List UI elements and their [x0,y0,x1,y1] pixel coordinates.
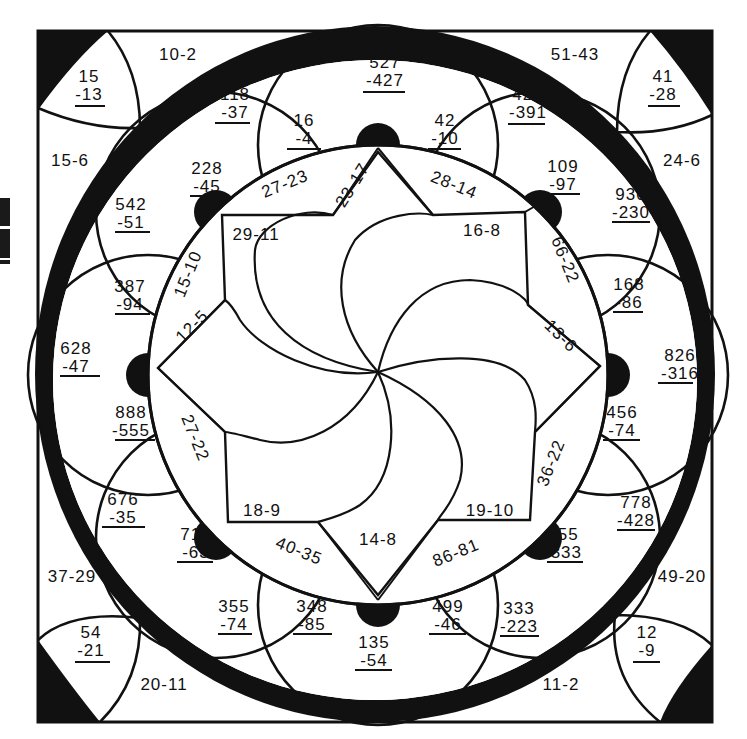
svg-text:542: 542 [115,195,146,214]
svg-text:15: 15 [79,67,100,86]
svg-text:-428: -428 [617,511,655,530]
border-problem: 37-29 [48,567,96,586]
petal-problem: 333 -223 [500,599,539,636]
petal-problem: 168 -86 [613,275,645,312]
svg-text:-10: -10 [431,129,459,148]
svg-text:109: 109 [547,157,578,176]
svg-text:628: 628 [60,339,91,358]
svg-text:135: 135 [358,633,389,652]
petal-problem: 527 -427 [363,53,405,92]
svg-text:-46: -46 [434,615,462,634]
svg-text:-74: -74 [608,421,636,440]
svg-text:555: 555 [547,525,578,544]
petal-problem: 456 -74 [603,403,640,440]
svg-text:355: 355 [218,597,249,616]
svg-text:42: 42 [435,111,456,130]
svg-text:-4: -4 [295,129,312,148]
petal-problem: 118 -37 [215,85,250,123]
petal-problem: 930 -230 [612,185,650,222]
inner-problem: 16-8 [463,221,501,240]
svg-text:118: 118 [220,85,250,104]
svg-text:41: 41 [653,67,674,86]
petal-problem: 355 -74 [218,597,252,634]
petal-problem: 421 -391 [508,85,547,124]
svg-text:-223: -223 [500,617,538,636]
svg-text:421: 421 [512,85,543,104]
border-problem: 49-20 [658,567,706,586]
svg-text:888: 888 [115,403,146,422]
mandala-worksheet: 15 -13 41 -28 54 -21 12 -9 10-2 15-6 51-… [0,0,747,739]
svg-text:-63: -63 [182,543,210,562]
svg-text:-316: -316 [661,364,699,383]
svg-text:-13: -13 [75,85,103,104]
svg-text:-45: -45 [193,177,221,196]
svg-text:-94: -94 [116,295,144,314]
border-problem: 15-6 [51,151,89,170]
svg-text:716: 716 [180,525,211,544]
svg-text:-9: -9 [638,641,655,660]
svg-text:-391: -391 [509,103,547,122]
svg-text:-74: -74 [220,615,248,634]
svg-text:527: 527 [369,53,400,72]
border-problem: 51-43 [551,45,599,64]
svg-text:-555: -555 [112,421,150,440]
svg-text:456: 456 [606,403,637,422]
svg-text:-47: -47 [62,357,90,376]
svg-text:-54: -54 [360,651,388,670]
svg-text:-37: -37 [221,103,249,122]
border-problem: 24-6 [663,151,701,170]
svg-text:-333: -333 [544,543,582,562]
svg-text:228: 228 [191,159,222,178]
svg-text:778: 778 [620,493,651,512]
petal-problem: 778 -428 [617,493,655,530]
svg-text:348: 348 [296,597,327,616]
border-problem: 11-2 [543,675,580,694]
inner-problem: 29-11 [232,225,279,244]
petal-problem: 826 -316 [658,346,699,383]
border-problem: 20-11 [140,675,187,694]
petal-problem: 716 -63 [177,525,213,562]
svg-text:-85: -85 [298,615,326,634]
svg-text:-230: -230 [612,203,650,222]
border-problem: 10-2 [159,45,197,64]
svg-text:-35: -35 [109,508,137,527]
svg-text:333: 333 [503,599,534,618]
svg-text:-28: -28 [649,85,677,104]
petal-problem: 135 -54 [355,633,392,670]
ring-problem: 14-8 [359,530,397,549]
inner-problem: 19-10 [466,501,514,520]
svg-text:-97: -97 [549,175,577,194]
inner-problem: 18-9 [243,501,281,520]
petal-problem: 542 -51 [115,195,150,232]
svg-text:54: 54 [81,623,102,642]
petal-problem: 228 -45 [190,159,225,196]
petal-problem: 555 -333 [544,525,583,562]
svg-text:387: 387 [114,277,145,296]
svg-text:826: 826 [664,346,695,365]
svg-text:-86: -86 [615,293,643,312]
svg-text:168: 168 [613,275,644,294]
svg-text:676: 676 [107,490,138,509]
svg-text:-21: -21 [77,641,105,660]
svg-text:12: 12 [637,623,658,642]
svg-text:-427: -427 [366,71,404,90]
petal-problem: 499 -46 [429,597,466,634]
svg-text:930: 930 [615,185,646,204]
svg-text:499: 499 [432,597,463,616]
petal-problem: 109 -97 [545,157,580,194]
svg-text:16: 16 [294,111,315,130]
svg-text:-51: -51 [117,213,145,232]
